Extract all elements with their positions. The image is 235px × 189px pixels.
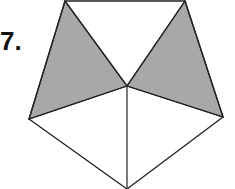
pentagon-figure [0, 0, 235, 189]
shaded-triangle-right [127, 1, 223, 117]
